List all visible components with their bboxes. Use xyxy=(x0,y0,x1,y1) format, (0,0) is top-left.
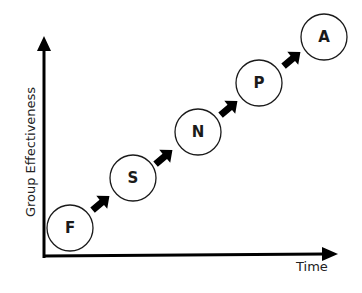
diagram-canvas: FSNPA Time Group Effectiveness xyxy=(0,0,362,293)
stage-label-a: A xyxy=(301,14,347,60)
y-axis-label: Group Effectiveness xyxy=(23,87,38,217)
stage-label-f: F xyxy=(47,205,93,251)
stage-label-s: S xyxy=(110,155,156,201)
stage-label-n: N xyxy=(175,109,221,155)
x-axis-label: Time xyxy=(296,259,328,274)
y-axis-arrowhead-icon xyxy=(37,36,51,51)
stage-label-p: P xyxy=(236,60,282,106)
